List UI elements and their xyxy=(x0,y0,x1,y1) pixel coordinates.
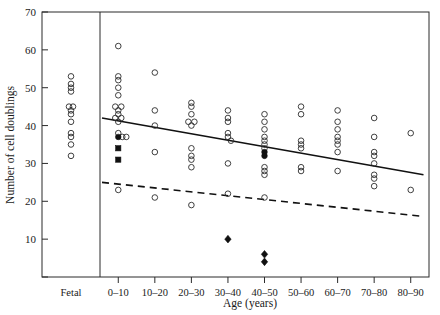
x-category-label: 20–30 xyxy=(178,287,204,298)
y-tick-label: 30 xyxy=(25,157,37,169)
plot-background xyxy=(0,0,440,315)
y-tick-label: 40 xyxy=(25,120,37,132)
figure-container: 10203040506070 Fetal0–1010–2020–3030–404… xyxy=(0,0,440,315)
x-category-label: 70–80 xyxy=(361,287,387,298)
scatter-plot: 10203040506070 Fetal0–1010–2020–3030–404… xyxy=(0,0,440,315)
y-axis-title: Number of cell doublings xyxy=(4,86,17,204)
y-tick-label: 60 xyxy=(25,44,37,56)
data-point-filled-circle xyxy=(262,153,268,159)
data-point-filled-square xyxy=(116,146,121,151)
x-category-label: 0–10 xyxy=(108,287,129,298)
x-category-label: 60–70 xyxy=(324,287,350,298)
x-axis-title: Age (years) xyxy=(223,297,277,310)
data-point-filled-square xyxy=(116,157,121,162)
x-category-label: 50–60 xyxy=(288,287,314,298)
data-point-filled-circle xyxy=(115,134,121,140)
x-category-label: 10–20 xyxy=(142,287,168,298)
y-tick-label: 10 xyxy=(25,233,37,245)
y-tick-label: 20 xyxy=(25,195,37,207)
x-category-label: Fetal xyxy=(61,287,82,298)
y-tick-label: 50 xyxy=(25,82,37,94)
x-category-label: 80–90 xyxy=(398,287,424,298)
y-tick-label: 70 xyxy=(25,6,37,18)
